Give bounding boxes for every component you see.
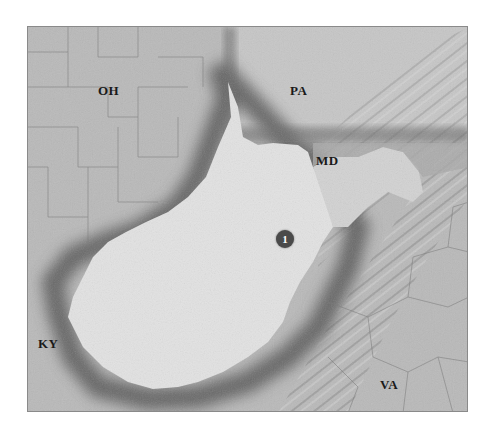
map-frame: OH PA MD KY VA 1 bbox=[27, 26, 468, 412]
relief-texture bbox=[28, 27, 468, 412]
label-kentucky: KY bbox=[38, 336, 59, 352]
location-marker-1[interactable]: 1 bbox=[276, 230, 294, 248]
marker-number: 1 bbox=[282, 233, 288, 245]
label-virginia: VA bbox=[380, 377, 398, 393]
label-pennsylvania: PA bbox=[290, 83, 307, 99]
label-ohio: OH bbox=[98, 83, 119, 99]
label-maryland: MD bbox=[316, 153, 339, 169]
relief-map bbox=[28, 27, 468, 412]
